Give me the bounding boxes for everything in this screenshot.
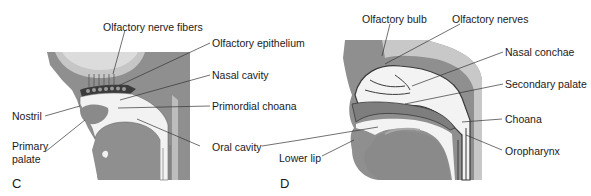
label-oral-cavity: Oral cavity xyxy=(212,141,262,153)
label-olfactory-nerve-fibers: Olfactory nerve fibers xyxy=(103,21,203,33)
label-olfactory-bulb: Olfactory bulb xyxy=(362,13,427,25)
diagram-artwork xyxy=(0,0,591,196)
label-nasal-cavity-c: Nasal cavity xyxy=(212,69,269,81)
label-olfactory-epithelium: Olfactory epithelium xyxy=(212,37,305,49)
label-primary-palate-line1: Primary xyxy=(12,140,48,152)
label-primary-palate-line2: palate xyxy=(12,153,41,165)
anatomy-figure: Olfactory nerve fibers Olfactory epithel… xyxy=(0,0,591,196)
label-nostril: Nostril xyxy=(12,110,42,122)
label-olfactory-nerves: Olfactory nerves xyxy=(452,13,528,25)
panel-letter-d: D xyxy=(280,176,289,191)
panel-letter-c: C xyxy=(12,176,21,191)
panel-c-artwork xyxy=(47,52,190,180)
panel-d-artwork xyxy=(343,40,482,180)
label-nasal-conchae: Nasal conchae xyxy=(505,46,574,58)
label-secondary-palate: Secondary palate xyxy=(505,78,587,90)
label-primordial-choana: Primordial choana xyxy=(212,100,297,112)
label-oropharynx: Oropharynx xyxy=(505,145,560,157)
label-lower-lip: Lower lip xyxy=(279,152,321,164)
label-choana: Choana xyxy=(505,113,542,125)
